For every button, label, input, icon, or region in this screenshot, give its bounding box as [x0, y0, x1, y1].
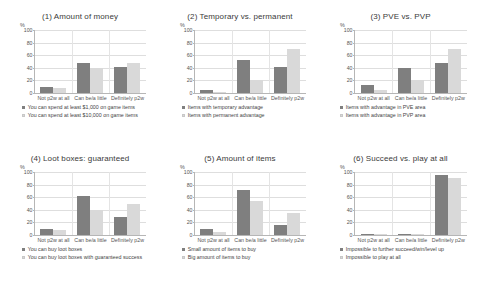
- bar-series-b: [448, 178, 461, 235]
- legend-item: You can spend at least $10,000 on game i…: [22, 112, 138, 120]
- y-axis-tick-label: 80: [27, 182, 33, 188]
- y-axis-tick-label: 0: [190, 90, 193, 96]
- y-axis-tick-label: 0: [350, 90, 353, 96]
- bar-series-a: [435, 175, 448, 235]
- bar-group: [232, 30, 269, 93]
- y-axis-tick-mark: [33, 93, 35, 94]
- legend-swatch-icon: [182, 106, 185, 109]
- bar-series-b: [90, 210, 103, 235]
- chart-legend: Items with advantage in PVE areaItems wi…: [340, 104, 425, 119]
- legend-label: Impossible to further succeed/win/level …: [346, 246, 444, 254]
- plot-area: 020406080100Not p2w at allCan be/a littl…: [354, 30, 467, 94]
- plot-area: 020406080100Not p2w at allCan be/a littl…: [34, 30, 146, 94]
- bar-series-b: [213, 232, 226, 235]
- y-axis-tick-label: 20: [187, 77, 193, 83]
- chart-panel-5: (5) Amount of items%020406080100Not p2w …: [160, 142, 320, 285]
- legend-swatch-icon: [340, 256, 343, 259]
- bar-series-a: [114, 217, 127, 235]
- bar-series-a: [398, 234, 411, 235]
- x-axis-label: Can be/a little: [234, 237, 266, 243]
- bar-series-a: [40, 87, 53, 93]
- bar-group: [269, 30, 306, 93]
- y-axis-tick-label: 80: [27, 40, 33, 46]
- y-axis-tick-label: 100: [24, 27, 33, 33]
- y-axis-tick-label: 20: [27, 219, 33, 225]
- legend-item: Impossible to further succeed/win/level …: [340, 246, 444, 254]
- bar-series-b: [411, 234, 424, 235]
- legend-swatch-icon: [22, 248, 25, 251]
- legend-label: You can spend at least $10,000 on game i…: [28, 112, 138, 120]
- legend-label: Small amount of items to buy: [188, 246, 256, 254]
- chart-panel-6: (6) Succeed vs. play at all%020406080100…: [320, 142, 481, 285]
- chart-title: (4) Loot boxes: guaranteed: [0, 154, 160, 163]
- x-axis-label: Definitely p2w: [271, 95, 304, 101]
- y-axis-tick-label: 100: [344, 169, 353, 175]
- bar-group: [72, 172, 109, 235]
- bar-series-a: [361, 85, 374, 93]
- legend-swatch-icon: [340, 106, 343, 109]
- y-axis-tick-label: 100: [344, 27, 353, 33]
- bar-group: [232, 172, 269, 235]
- y-axis-tick-label: 20: [347, 77, 353, 83]
- legend-label: You can buy loot boxes with guaranteed s…: [28, 254, 142, 262]
- y-axis-tick-label: 100: [184, 27, 193, 33]
- legend-item: Impossible to play at all: [340, 254, 444, 262]
- legend-label: You can buy loot boxes: [28, 246, 83, 254]
- bar-series-a: [274, 67, 287, 93]
- bar-series-b: [127, 204, 140, 236]
- bar-group: [195, 172, 232, 235]
- bar-series-a: [274, 225, 287, 235]
- bar-series-a: [77, 196, 90, 235]
- y-axis-tick-label: 40: [347, 207, 353, 213]
- chart-legend: Small amount of items to buyBig amount o…: [182, 246, 256, 261]
- plot-area: 020406080100Not p2w at allCan be/a littl…: [354, 172, 467, 236]
- bar-group: [269, 172, 306, 235]
- x-axis-label: Definitely p2w: [432, 95, 465, 101]
- bar-series-b: [127, 63, 140, 93]
- x-axis-label: Can be/a little: [234, 95, 266, 101]
- legend-swatch-icon: [22, 114, 25, 117]
- y-axis-tick-label: 60: [187, 52, 193, 58]
- legend-item: Items with permanent advantage: [182, 112, 265, 120]
- bar-series-b: [53, 230, 66, 235]
- y-axis-tick-label: 40: [347, 65, 353, 71]
- bar-series-b: [374, 234, 387, 235]
- bar-series-a: [114, 67, 127, 93]
- legend-item: Big amount of items to buy: [182, 254, 256, 262]
- bar-series-b: [53, 88, 66, 93]
- y-axis-tick-label: 20: [347, 219, 353, 225]
- bar-series-b: [287, 49, 300, 93]
- legend-item: You can buy loot boxes: [22, 246, 142, 254]
- legend-label: Items with advantage in PVE area: [346, 104, 426, 112]
- chart-legend: Impossible to further succeed/win/level …: [340, 246, 444, 261]
- legend-label: Big amount of items to buy: [188, 254, 251, 262]
- y-axis-tick-label: 60: [27, 52, 33, 58]
- x-axis-label: Can be/a little: [74, 95, 106, 101]
- bar-group: [195, 30, 232, 93]
- legend-swatch-icon: [22, 106, 25, 109]
- y-axis-tick-mark: [33, 235, 35, 236]
- y-axis-tick-label: 100: [24, 169, 33, 175]
- bar-group: [430, 30, 467, 93]
- bar-group: [35, 30, 72, 93]
- bar-series-a: [40, 229, 53, 235]
- y-axis-tick-label: 0: [30, 90, 33, 96]
- x-axis-label: Definitely p2w: [111, 95, 144, 101]
- legend-label: Items with temporary advantage: [188, 104, 263, 112]
- chart-legend: You can buy loot boxesYou can buy loot b…: [22, 246, 142, 261]
- y-axis-tick-mark: [193, 235, 195, 236]
- legend-label: Impossible to play at all: [346, 254, 401, 262]
- bar-series-a: [398, 68, 411, 93]
- chart-title: (6) Succeed vs. play at all: [320, 154, 481, 163]
- bar-group: [35, 172, 72, 235]
- x-axis-label: Definitely p2w: [111, 237, 144, 243]
- plot-area: 020406080100Not p2w at allCan be/a littl…: [194, 30, 306, 94]
- chart-panel-1: (1) Amount of money%020406080100Not p2w …: [0, 0, 160, 142]
- bar-series-a: [435, 63, 448, 93]
- chart-grid: (1) Amount of money%020406080100Not p2w …: [0, 0, 481, 285]
- legend-item: Items with advantage in PVE area: [340, 104, 425, 112]
- bar-group: [392, 30, 429, 93]
- y-axis-tick-label: 0: [190, 232, 193, 238]
- x-axis-label: Not p2w at all: [358, 237, 390, 243]
- y-axis-tick-label: 0: [30, 232, 33, 238]
